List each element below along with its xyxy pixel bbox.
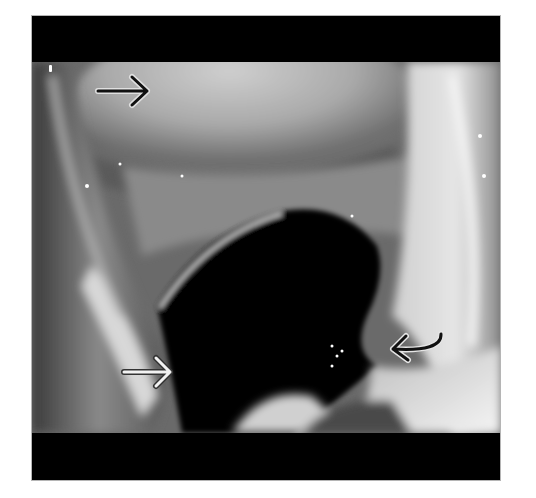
top-black-band <box>32 16 500 62</box>
endoscopy-image <box>32 16 500 480</box>
endoscopy-figure <box>32 16 500 480</box>
bottom-black-band <box>32 433 500 480</box>
